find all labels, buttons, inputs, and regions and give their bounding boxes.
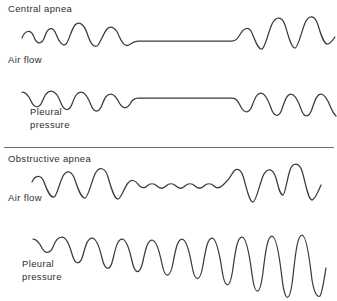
label-central-apnea: Central apnea xyxy=(8,3,72,16)
label-obstructive-apnea: Obstructive apnea xyxy=(8,153,91,166)
label-central-apnea-air-flow: Air flow xyxy=(8,54,42,67)
waveform-path xyxy=(22,17,335,49)
label-central-apnea-pleural-pressure: Pleural pressure xyxy=(30,106,70,131)
apnea-waveform-figure: Central apnea Air flow Pleural pressure … xyxy=(0,0,337,301)
label-obstructive-apnea-pleural-pressure: Pleural pressure xyxy=(22,258,62,283)
section-divider xyxy=(4,147,334,148)
waveform-path xyxy=(33,235,326,297)
label-obstructive-apnea-air-flow: Air flow xyxy=(8,192,42,205)
waveform-path xyxy=(32,164,321,202)
